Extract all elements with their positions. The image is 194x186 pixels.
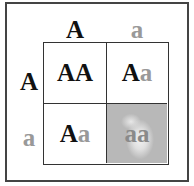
column-allele-recessive: a	[127, 17, 147, 42]
row-allele-recessive: a	[19, 125, 39, 150]
cell-AA: AA	[44, 43, 107, 104]
genotype-recessive: a	[78, 120, 91, 148]
cell-Aa-top: Aa	[107, 43, 167, 104]
cell-Aa-bottom: Aa	[44, 104, 107, 163]
genotype-recessive: a	[140, 59, 153, 87]
column-allele-dominant: A	[65, 17, 85, 42]
genotype-dominant: A	[60, 120, 78, 148]
genotype-dominant: AA	[57, 59, 93, 87]
row-allele-dominant: A	[18, 69, 40, 94]
punnett-grid: AA Aa Aa aa	[43, 42, 169, 165]
genotype-recessive: aa	[125, 120, 150, 148]
cell-aa-highlighted: aa	[107, 104, 167, 163]
genotype-dominant: A	[122, 59, 140, 87]
